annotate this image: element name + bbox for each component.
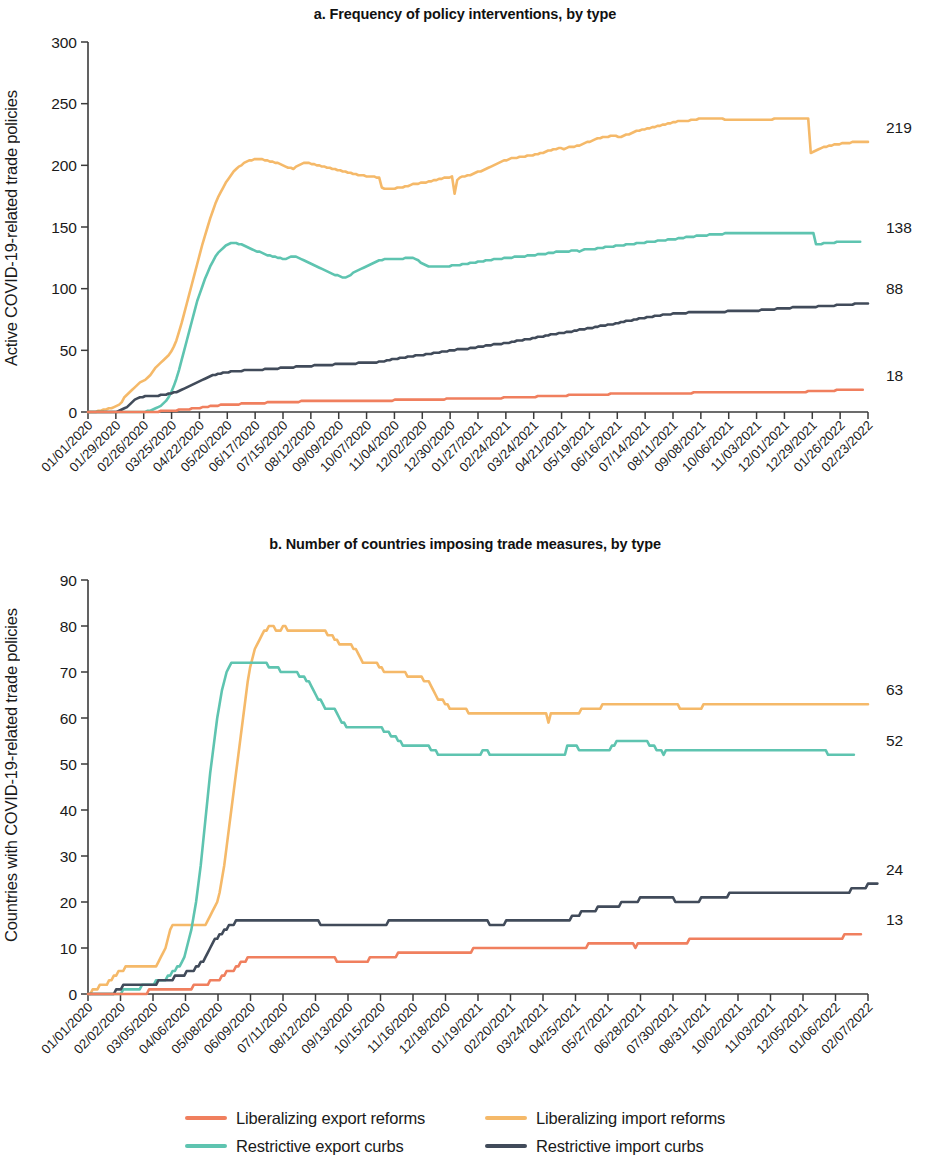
y-tick-label: 60 [60, 710, 78, 727]
y-tick-label: 70 [60, 664, 78, 681]
legend-item-lib_import[interactable]: Liberalizing import reforms [485, 1104, 785, 1132]
panel-b-plot: 010203040506070809001/01/202002/02/20200… [0, 532, 930, 1102]
y-tick-label: 30 [60, 848, 78, 865]
y-tick-label: 80 [60, 618, 78, 635]
legend-swatch-res_export [185, 1144, 227, 1149]
legend-label-lib_import: Liberalizing import reforms [536, 1109, 725, 1128]
y-tick-label: 10 [60, 940, 78, 957]
series-end-value-label: 24 [886, 861, 904, 878]
series-line [88, 233, 860, 412]
legend-item-res_export[interactable]: Restrictive export curbs [185, 1132, 485, 1160]
legend-label-res_export: Restrictive export curbs [236, 1137, 404, 1156]
legend-swatch-lib_import [485, 1116, 527, 1121]
series-end-value-label: 13 [886, 911, 903, 928]
legend-swatch-res_import [485, 1144, 527, 1149]
y-tick-label: 20 [60, 894, 78, 911]
figure-legend: Liberalizing export reformsLiberalizing … [0, 1104, 930, 1164]
legend-item-lib_export[interactable]: Liberalizing export reforms [185, 1104, 485, 1132]
y-tick-label: 300 [51, 34, 77, 51]
series-line [88, 934, 861, 994]
legend-item-res_import[interactable]: Restrictive import curbs [485, 1132, 785, 1160]
chart-panel-b: b. Number of countries imposing trade me… [0, 532, 930, 1102]
y-tick-label: 50 [60, 756, 78, 773]
y-tick-label: 90 [60, 572, 78, 589]
panel-a-plot: 05010015020025030001/01/202001/29/202002… [0, 0, 930, 520]
series-end-value-label: 88 [886, 280, 903, 297]
series-end-value-label: 63 [886, 681, 903, 698]
legend-label-res_import: Restrictive import curbs [536, 1137, 704, 1156]
series-line [88, 303, 868, 412]
series-line [88, 118, 868, 412]
y-tick-label: 0 [68, 986, 77, 1003]
series-line [88, 390, 863, 412]
y-tick-label: 150 [51, 219, 77, 236]
y-tick-label: 40 [60, 802, 78, 819]
y-tick-label: 0 [68, 404, 77, 421]
series-end-value-label: 52 [886, 732, 903, 749]
series-end-value-label: 18 [886, 367, 903, 384]
y-tick-label: 50 [60, 342, 78, 359]
y-tick-label: 250 [51, 95, 77, 112]
chart-panel-a: a. Frequency of policy interventions, by… [0, 0, 930, 520]
y-tick-label: 200 [51, 157, 77, 174]
legend-label-lib_export: Liberalizing export reforms [236, 1109, 425, 1128]
y-tick-label: 100 [51, 280, 77, 297]
series-end-value-label: 138 [886, 219, 912, 236]
figure-root: a. Frequency of policy interventions, by… [0, 0, 930, 1164]
legend-swatch-lib_export [185, 1116, 227, 1121]
series-end-value-label: 219 [886, 119, 912, 136]
